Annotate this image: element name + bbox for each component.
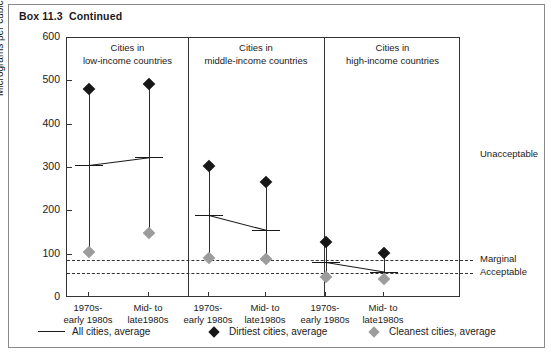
panel-title-line1: Cities in — [67, 42, 188, 55]
dirtiest-cities-marker — [83, 82, 96, 95]
y-axis-tick-label: 100 — [26, 247, 60, 259]
y-axis-tick-label: 600 — [26, 30, 60, 42]
legend-item: Dirtiest cities, average — [208, 326, 327, 337]
y-axis-tick-label: 0 — [26, 290, 60, 302]
panel-divider — [188, 38, 189, 296]
average-marker — [312, 262, 340, 263]
threshold-label: Marginal — [480, 253, 516, 264]
y-axis-tick-label: 300 — [26, 160, 60, 172]
panel-title: Cities inlow-income countries — [67, 42, 188, 67]
page-title: Box 11.3 Continued — [19, 10, 122, 22]
range-stem — [89, 89, 90, 252]
dirtiest-cities-marker — [378, 246, 391, 259]
panel-divider — [324, 38, 325, 296]
x-axis-tick-label: Mid- to late1980s — [343, 302, 423, 326]
cleanest-cities-marker — [260, 253, 273, 266]
cleanest-cities-marker — [83, 246, 96, 259]
threshold-line — [67, 273, 473, 274]
panel-title-line1: Cities in — [324, 42, 461, 55]
range-stem — [266, 182, 267, 259]
range-stem — [209, 166, 210, 258]
legend-label: All cities, average — [72, 326, 150, 337]
panel-title: Cities inhigh-income countries — [324, 42, 461, 67]
range-stem — [149, 84, 150, 234]
average-line-segment — [209, 215, 266, 231]
y-axis-tick-label: 500 — [26, 73, 60, 85]
legend-line-icon — [38, 331, 65, 332]
legend-item: All cities, average — [38, 326, 150, 337]
legend-diamond-icon — [208, 326, 219, 337]
panel-title-line2: low-income countries — [67, 55, 188, 68]
dirtiest-cities-marker — [203, 159, 216, 172]
plot-area: Cities inlow-income countriesCities inmi… — [66, 37, 460, 297]
dirtiest-cities-marker — [320, 235, 333, 248]
cleanest-cities-marker — [378, 272, 391, 285]
zone-label: Unacceptable — [480, 148, 538, 159]
chart-page: Box 11.3 Continued Micrograms per cubic … — [0, 0, 554, 353]
average-marker — [195, 215, 223, 216]
average-marker — [252, 230, 280, 231]
average-marker — [135, 157, 163, 158]
y-axis-tick-label: 400 — [26, 117, 60, 129]
dirtiest-cities-marker — [143, 78, 156, 91]
legend-diamond-icon — [368, 326, 379, 337]
chart-legend: All cities, averageDirtiest cities, aver… — [8, 326, 545, 348]
panel-title: Cities inmiddle-income countries — [188, 42, 324, 67]
dirtiest-cities-marker — [260, 176, 273, 189]
threshold-label: Acceptable — [480, 266, 527, 277]
legend-label: Cleanest cities, average — [389, 326, 496, 337]
y-axis-label: Micrograms per cubic metre of air — [0, 0, 5, 96]
y-axis-tick-label: 200 — [26, 203, 60, 215]
cleanest-cities-marker — [203, 252, 216, 265]
average-marker — [75, 165, 103, 166]
panel-title-line2: middle-income countries — [188, 55, 324, 68]
legend-item: Cleanest cities, average — [368, 326, 496, 337]
panel-title-line2: high-income countries — [324, 55, 461, 68]
cleanest-cities-marker — [143, 227, 156, 240]
legend-label: Dirtiest cities, average — [229, 326, 327, 337]
panel-title-line1: Cities in — [188, 42, 324, 55]
